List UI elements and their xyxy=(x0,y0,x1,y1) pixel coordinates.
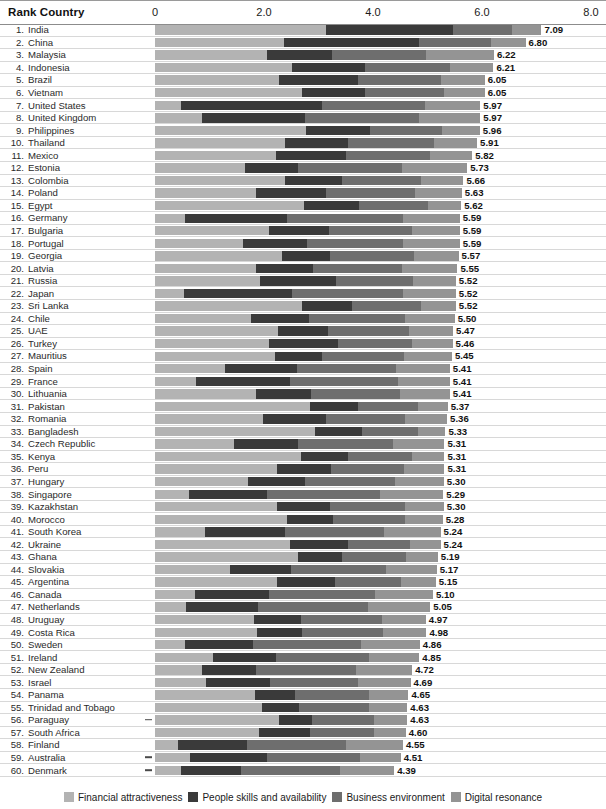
bar-segment-business-environment xyxy=(352,301,421,310)
bar-value-label: 6.80 xyxy=(526,37,548,49)
legend-item-business-environment[interactable]: Business environment xyxy=(332,792,444,803)
chart-row: 56.Paraguay4.63 xyxy=(0,714,606,727)
stacked-bar xyxy=(155,377,450,386)
bar-segment-financial-attractiveness xyxy=(155,527,205,536)
bar-segment-people-skills-and-availability xyxy=(256,389,312,398)
bar-segment-people-skills-and-availability xyxy=(285,176,342,185)
bar-segment-people-skills-and-availability xyxy=(285,138,348,147)
bar-segment-financial-attractiveness xyxy=(155,214,185,223)
chart-row: 21.Russia5.52 xyxy=(0,275,606,288)
rank-number: 60. xyxy=(0,765,24,776)
stacked-bar xyxy=(155,477,444,486)
bar-segment-people-skills-and-availability xyxy=(196,377,290,386)
bar-value-label: 6.22 xyxy=(494,49,516,61)
chart-row: 17.Bulgaria5.59 xyxy=(0,225,606,238)
stacked-bar xyxy=(155,640,420,649)
bar-segment-people-skills-and-availability xyxy=(254,615,301,624)
bar-segment-people-skills-and-availability xyxy=(181,101,323,110)
rank-number: 44. xyxy=(0,564,24,575)
row-label-denmark: 60.Denmark xyxy=(0,764,140,776)
country-name: Netherlands xyxy=(28,601,80,612)
bar-segment-business-environment xyxy=(348,540,410,549)
bar-segment-business-environment xyxy=(298,439,392,448)
bar-segment-digital-resonance xyxy=(402,163,467,172)
bar-segment-digital-resonance xyxy=(419,113,480,122)
bar-value-label: 5.30 xyxy=(444,501,466,513)
bar-value-label: 4.63 xyxy=(407,702,429,714)
bar-segment-business-environment xyxy=(326,414,404,423)
stacked-bar xyxy=(155,464,444,473)
bar-value-label: 5.57 xyxy=(459,250,481,262)
bar-value-label: 4.63 xyxy=(407,714,429,726)
bar-segment-financial-attractiveness xyxy=(155,138,285,147)
row-label-chile: 24.Chile xyxy=(0,313,140,325)
chart-rows: 1.India7.092.China6.803.Malaysia6.224.In… xyxy=(0,24,606,777)
bar-segment-financial-attractiveness xyxy=(155,552,298,561)
stacked-bar xyxy=(155,264,457,273)
row-label-philippines: 9.Philippines xyxy=(0,124,140,136)
bar-segment-financial-attractiveness xyxy=(155,464,277,473)
chart-row: 19.Georgia5.57 xyxy=(0,250,606,263)
country-name: Canada xyxy=(28,589,62,600)
country-name: Sweden xyxy=(28,639,63,650)
bar-segment-digital-resonance xyxy=(403,289,456,298)
bar-segment-digital-resonance xyxy=(405,314,455,323)
bar-segment-financial-attractiveness xyxy=(155,239,243,248)
bar-value-label: 5.52 xyxy=(456,300,478,312)
bar-segment-business-environment xyxy=(287,214,403,223)
chart-row: 47.Netherlands5.05 xyxy=(0,601,606,614)
bar-segment-financial-attractiveness xyxy=(155,226,269,235)
bar-segment-financial-attractiveness xyxy=(155,377,196,386)
rank-number: 43. xyxy=(0,551,24,562)
country-name: Ghana xyxy=(28,551,57,562)
bar-value-label: 6.05 xyxy=(485,74,507,86)
chart-row: 9.Philippines5.96 xyxy=(0,124,606,137)
bar-segment-business-environment xyxy=(346,151,429,160)
bar-value-label: 5.29 xyxy=(443,488,465,500)
bar-segment-people-skills-and-availability xyxy=(298,552,342,561)
stacked-bar xyxy=(155,188,462,197)
row-label-sweden: 50.Sweden xyxy=(0,639,140,651)
row-label-canada: 46.Canada xyxy=(0,589,140,601)
legend-item-digital-resonance[interactable]: Digital resonance xyxy=(451,792,542,803)
bar-segment-financial-attractiveness xyxy=(155,565,230,574)
bar-segment-business-environment xyxy=(453,25,512,34)
bar-segment-financial-attractiveness xyxy=(155,740,178,749)
rank-number: 55. xyxy=(0,702,24,713)
bar-value-label: 4.65 xyxy=(408,689,430,701)
bar-segment-digital-resonance xyxy=(412,452,444,461)
country-name: Latvia xyxy=(28,263,54,274)
rank-number: 11. xyxy=(0,150,24,161)
chart-row: 38.Singapore5.29 xyxy=(0,488,606,501)
chart-row: 27.Mauritius5.45 xyxy=(0,350,606,363)
row-label-new-zealand: 52.New Zealand xyxy=(0,664,140,676)
stacked-bar xyxy=(155,740,403,749)
row-label-slovakia: 44.Slovakia xyxy=(0,564,140,576)
bar-segment-digital-resonance xyxy=(491,38,526,47)
stacked-bar xyxy=(155,276,456,285)
bar-value-label: 5.52 xyxy=(456,275,478,287)
row-label-kazakhstan: 39.Kazakhstan xyxy=(0,501,140,513)
rank-number: 36. xyxy=(0,463,24,474)
legend-swatch-icon xyxy=(188,792,198,802)
chart-row: 1.India7.09 xyxy=(0,24,606,37)
row-label-costa-rica: 49.Costa Rica xyxy=(0,626,140,638)
bar-segment-business-environment xyxy=(258,602,368,611)
bar-segment-business-environment xyxy=(247,740,346,749)
bar-segment-people-skills-and-availability xyxy=(302,88,365,97)
chart-row: 51.Ireland4.85 xyxy=(0,651,606,664)
bar-segment-people-skills-and-availability xyxy=(256,188,326,197)
legend-item-people-skills-and-availability[interactable]: People skills and availability xyxy=(188,792,326,803)
bar-segment-digital-resonance xyxy=(414,251,458,260)
rank-number: 5. xyxy=(0,74,24,85)
bar-segment-business-environment xyxy=(338,339,413,348)
chart-row: 50.Sweden4.86 xyxy=(0,639,606,652)
stacked-bar xyxy=(155,113,480,122)
stacked-bar xyxy=(155,389,450,398)
stacked-bar xyxy=(155,226,460,235)
country-name: France xyxy=(28,376,58,387)
bar-segment-digital-resonance xyxy=(401,577,436,586)
row-label-uae: 25.UAE xyxy=(0,325,140,337)
bar-segment-digital-resonance xyxy=(405,502,444,511)
legend-item-financial-attractiveness[interactable]: Financial attractiveness xyxy=(64,792,183,803)
